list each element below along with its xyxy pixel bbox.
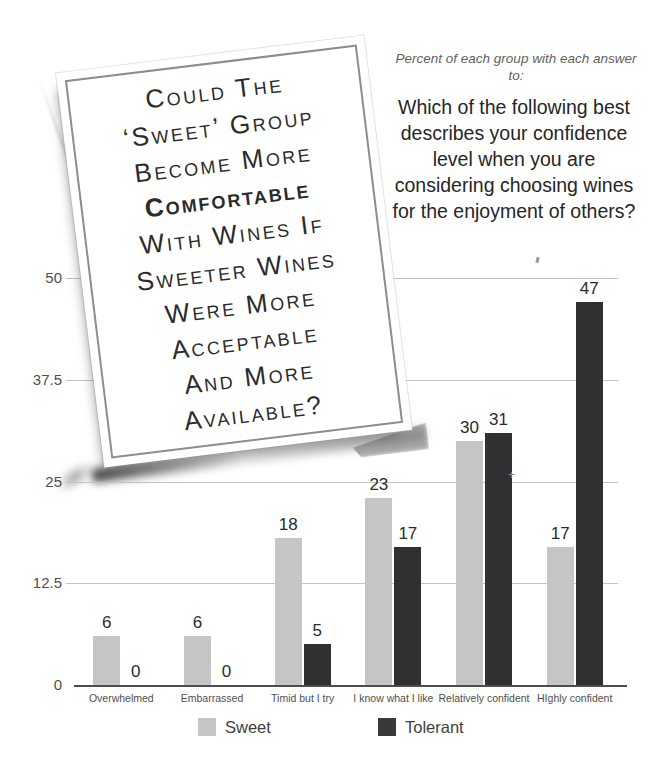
legend-item-sweet: Sweet [198,718,271,736]
legend-item-tolerant: Tolerant [378,718,464,736]
poster-card: Could The‘Sweet’ GroupBecome MoreComfort… [56,36,412,468]
legend-label-sweet: Sweet [225,718,271,736]
bar-tolerant: 17 [394,547,421,685]
category-label: Embarrassed [181,692,243,704]
scan-artifact-plus: + [508,468,515,482]
bar-value-label: 47 [580,279,599,299]
bar-tolerant: 5 [304,644,331,685]
legend-label-tolerant: Tolerant [405,718,464,736]
bar-value-label: 31 [489,410,508,430]
category-label: Timid but I try [271,692,334,704]
category-label: I know what I like [353,692,433,704]
bar-tolerant: 47 [576,302,603,685]
legend: Sweet Tolerant [0,718,649,740]
bar-sweet: 18 [275,538,302,685]
category-label: Relatively confident [438,692,529,704]
bar-value-label: 17 [398,524,417,544]
y-axis-tick-label: 12.5 [22,574,62,592]
category-label: HIghly confident [537,692,612,704]
bar-value-label: 23 [369,475,388,495]
bar-value-label: 0 [222,662,231,682]
bar-value-label: 18 [279,515,298,535]
y-axis-tick-label: 25 [22,473,62,491]
legend-swatch-sweet [198,718,216,736]
bar-value-label: 6 [193,613,202,633]
x-axis-line [74,685,627,687]
bar-sweet: 6 [93,636,120,685]
bar-value-label: 5 [312,621,321,641]
bar-group: 1747HIghly confident [529,278,620,685]
poster-frame: Could The‘Sweet’ GroupBecome MoreComfort… [65,45,403,459]
bar-value-label: 17 [551,524,570,544]
bar-sweet: 17 [547,547,574,685]
bar-sweet: 6 [184,636,211,685]
bar-value-label: 0 [131,662,140,682]
bar-value-label: 30 [460,418,479,438]
y-axis-tick-label: 50 [22,269,62,287]
legend-swatch-tolerant [378,718,396,736]
bar-sweet: 30 [456,441,483,685]
category-label: Overwhelmed [89,692,154,704]
y-axis-tick-label: 37.5 [22,371,62,389]
bar-value-label: 6 [102,613,111,633]
bar-group: 3031Relatively confident [439,278,530,685]
bar-sweet: 23 [365,498,392,685]
y-axis-tick-label: 0 [22,676,62,694]
